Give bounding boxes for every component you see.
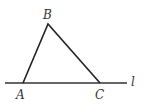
vertex-label-a: A (15, 88, 25, 102)
vertex-label-b: B (42, 8, 52, 22)
line-label-l: l (131, 75, 135, 89)
triangle-sides (23, 24, 100, 83)
triangle-diagram: B A C l (0, 0, 145, 108)
vertex-label-c: C (95, 88, 104, 102)
